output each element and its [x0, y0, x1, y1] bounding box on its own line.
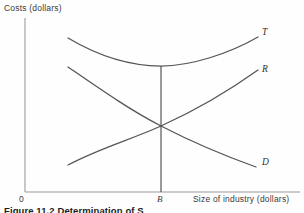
curve-T: [68, 37, 258, 66]
x-axis-label: Size of industry (dollars): [193, 194, 289, 204]
figure-container: Costs (dollars) Size of industry (dollar…: [0, 0, 304, 213]
curve-label-d: D: [262, 157, 269, 167]
y-axis-label: Costs (dollars): [4, 3, 62, 13]
figure-caption: Figure 11.2 Determination of S: [4, 205, 304, 213]
curve-R: [68, 70, 258, 165]
b-tick-label: B: [157, 194, 163, 204]
origin-tick-label: 0: [19, 194, 24, 204]
curve-label-r: R: [262, 64, 268, 74]
curve-label-t: T: [262, 27, 267, 37]
chart-plot-area: [0, 0, 304, 213]
